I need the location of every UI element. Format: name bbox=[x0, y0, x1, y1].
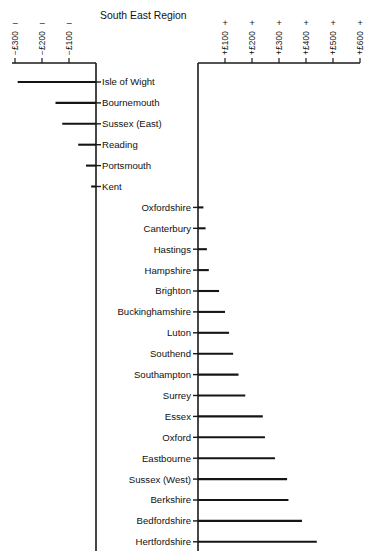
positive-axis-tick-label: +£400 bbox=[302, 31, 311, 55]
negative-axis-sign: – bbox=[13, 18, 18, 28]
category-label-oxford: Oxford bbox=[162, 432, 191, 443]
category-labels-group: Isle of WightBournemouthSussex (East)Rea… bbox=[102, 76, 191, 547]
south-east-region-bar-chart: South East Region −£300–−£200–−£100– +£1… bbox=[0, 0, 372, 551]
category-label-berkshire: Berkshire bbox=[150, 494, 191, 505]
positive-axis-sign: + bbox=[276, 18, 281, 28]
category-label-reading: Reading bbox=[102, 139, 138, 150]
category-label-hertfordshire: Hertfordshire bbox=[136, 536, 191, 547]
category-label-oxfordshire: Oxfordshire bbox=[141, 202, 191, 213]
negative-axis-tick-label: −£100 bbox=[65, 31, 74, 55]
negative-axis-sign: – bbox=[40, 18, 45, 28]
category-label-southampton: Southampton bbox=[134, 369, 191, 380]
category-label-brighton: Brighton bbox=[155, 285, 191, 296]
positive-axis-sign: + bbox=[357, 18, 362, 28]
category-label-sussex-east: Sussex (East) bbox=[102, 118, 162, 129]
category-label-luton: Luton bbox=[167, 327, 191, 338]
negative-axis-tick-label: −£200 bbox=[38, 31, 47, 55]
category-label-eastbourne: Eastbourne bbox=[142, 453, 191, 464]
positive-axis-tick-label: +£200 bbox=[248, 31, 257, 55]
category-label-sussex-west: Sussex (West) bbox=[129, 474, 191, 485]
positive-axis-tick-label: +£100 bbox=[221, 31, 230, 55]
chart-title: South East Region bbox=[100, 10, 187, 21]
category-label-hastings: Hastings bbox=[154, 244, 192, 255]
positive-axis-sign: + bbox=[249, 18, 254, 28]
category-label-isle-of-wight: Isle of Wight bbox=[102, 76, 155, 87]
positive-axis-sign: + bbox=[303, 18, 308, 28]
negative-axis-tick-label: −£300 bbox=[11, 31, 20, 55]
positive-axis-tick-label: +£500 bbox=[329, 31, 338, 55]
chart-container: South East Region −£300–−£200–−£100– +£1… bbox=[0, 0, 372, 551]
category-label-surrey: Surrey bbox=[163, 390, 191, 401]
positive-axis-tick-label: +£300 bbox=[275, 31, 284, 55]
negative-axis: −£300–−£200–−£100– bbox=[11, 18, 96, 551]
category-label-buckinghamshire: Buckinghamshire bbox=[117, 306, 191, 317]
category-label-canterbury: Canterbury bbox=[144, 223, 192, 234]
category-label-bedfordshire: Bedfordshire bbox=[137, 515, 191, 526]
negative-axis-sign: – bbox=[67, 18, 72, 28]
positive-axis-sign: + bbox=[330, 18, 335, 28]
category-label-southend: Southend bbox=[150, 348, 191, 359]
category-label-hampshire: Hampshire bbox=[145, 265, 191, 276]
positive-axis: +£100++£200++£300++£400++£500++£600+ bbox=[198, 18, 365, 551]
category-label-essex: Essex bbox=[165, 411, 191, 422]
positive-axis-sign: + bbox=[222, 18, 227, 28]
category-label-portsmouth: Portsmouth bbox=[102, 160, 151, 171]
positive-axis-tick-label: +£600 bbox=[356, 31, 365, 55]
category-label-kent: Kent bbox=[102, 181, 122, 192]
category-label-bournemouth: Bournemouth bbox=[102, 97, 160, 108]
